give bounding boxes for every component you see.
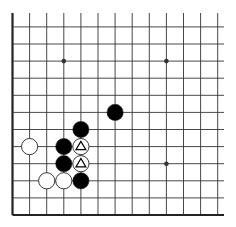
star-point-icon xyxy=(164,59,169,64)
white-stone-circle xyxy=(22,139,38,155)
white-stone[interactable] xyxy=(39,173,55,189)
white-stone[interactable] xyxy=(56,173,72,189)
white-stone[interactable] xyxy=(73,156,89,172)
black-stone-circle xyxy=(107,104,123,120)
black-stone[interactable] xyxy=(107,104,123,120)
black-stone[interactable] xyxy=(56,156,72,172)
black-stone-circle xyxy=(56,156,72,172)
go-board[interactable] xyxy=(0,0,236,227)
white-stone-circle xyxy=(39,173,55,189)
white-stone[interactable] xyxy=(73,139,89,155)
white-stone[interactable] xyxy=(22,139,38,155)
black-stone[interactable] xyxy=(56,139,72,155)
star-point-icon xyxy=(62,59,67,64)
black-stone[interactable] xyxy=(73,173,89,189)
black-stone-circle xyxy=(56,139,72,155)
black-stone-circle xyxy=(73,173,89,189)
white-stone-circle xyxy=(56,173,72,189)
black-stone[interactable] xyxy=(73,121,89,137)
black-stone-circle xyxy=(73,121,89,137)
star-point-icon xyxy=(164,161,169,166)
